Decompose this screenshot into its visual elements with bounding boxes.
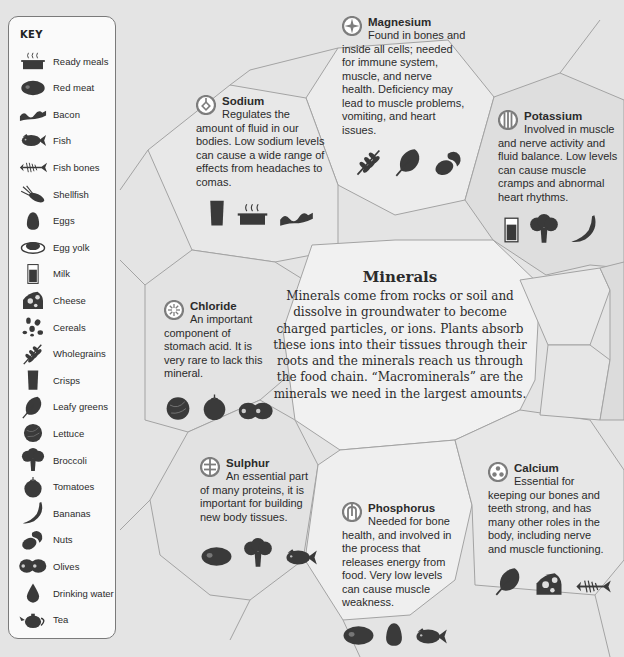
- eggs-icon: [385, 622, 403, 651]
- mineral-card-sulphur: Sulphur An essential part of many protei…: [200, 457, 312, 572]
- mineral-card-calcium: Calcium Essential for keeping our bones …: [488, 462, 612, 600]
- food-icons: [354, 147, 466, 181]
- ready-meals-icon: [236, 202, 269, 231]
- minerals-intro: Minerals Minerals come from rocks or soi…: [270, 268, 530, 402]
- mineral-description: Involved in muscle and nerve activity an…: [498, 123, 624, 204]
- olives-icon: [17, 556, 49, 576]
- calcium-symbol-icon: [488, 462, 508, 482]
- ready-meals-icon: [17, 51, 49, 71]
- cheese-icon: [17, 290, 49, 310]
- phosphorus-symbol-icon: [342, 502, 362, 522]
- mineral-description: Regulates the amount of fluid in our bod…: [196, 108, 328, 189]
- key-item: Wholegrains: [17, 344, 106, 364]
- key-item-label: Drinking water: [53, 588, 114, 599]
- key-item: Tea: [17, 610, 68, 630]
- mineral-title: Chloride: [190, 300, 237, 314]
- broccoli-icon: [17, 450, 49, 470]
- key-item-label: Tea: [53, 614, 68, 625]
- key-item: Fish: [17, 131, 71, 151]
- fish-icon: [17, 131, 49, 151]
- food-icons: [494, 566, 612, 600]
- cereals-icon: [17, 317, 49, 337]
- tea-icon: [17, 610, 49, 630]
- mineral-description: An important component of stomach acid. …: [164, 313, 264, 381]
- key-item-label: Fish: [53, 135, 71, 146]
- key-item-label: Cereals: [53, 322, 86, 333]
- tomatoes-icon: [202, 393, 227, 425]
- fish-bones-icon: [17, 157, 49, 177]
- mineral-title: Sulphur: [226, 457, 269, 471]
- mineral-title: Phosphorus: [368, 502, 435, 516]
- key-item: Ready meals: [17, 51, 108, 71]
- key-item: Eggs: [17, 211, 75, 231]
- drinking-water-icon: [17, 583, 49, 603]
- fish-bones-icon: [574, 577, 612, 600]
- nuts-icon: [434, 149, 464, 181]
- olives-icon: [237, 401, 275, 425]
- key-item-label: Crisps: [53, 375, 80, 386]
- sulphur-symbol-icon: [200, 457, 220, 477]
- nuts-icon: [17, 530, 49, 550]
- broccoli-icon: [243, 538, 273, 572]
- key-item: Crisps: [17, 370, 80, 390]
- mineral-title: Magnesium: [368, 16, 431, 30]
- mineral-card-sodium: Sodium Regulates the amount of fluid in …: [196, 95, 328, 231]
- key-item-label: Shellfish: [53, 189, 89, 200]
- magnesium-symbol-icon: [342, 16, 362, 36]
- bananas-icon: [17, 503, 49, 523]
- key-item: Red meat: [17, 78, 94, 98]
- chloride-symbol-icon: [164, 300, 184, 320]
- bacon-icon: [17, 104, 49, 124]
- key-item-label: Olives: [53, 561, 79, 572]
- mineral-card-chloride: Chloride An important component of stoma…: [164, 300, 264, 424]
- red-meat-icon: [200, 545, 233, 572]
- mineral-description: Essential for keeping our bones and teet…: [488, 475, 612, 556]
- key-item-label: Tomatoes: [53, 481, 94, 492]
- red-meat-icon: [342, 624, 375, 651]
- bacon-icon: [279, 208, 314, 231]
- key-item: Fish bones: [17, 157, 99, 177]
- key-item: Lettuce: [17, 423, 84, 443]
- fish-icon: [283, 547, 318, 572]
- mineral-card-potassium: Potassium Involved in muscle and nerve a…: [498, 110, 624, 248]
- eggs-icon: [17, 211, 49, 231]
- tomatoes-icon: [17, 477, 49, 497]
- key-item: Olives: [17, 556, 79, 576]
- cell-right-2: [540, 345, 610, 420]
- shellfish-icon: [17, 184, 49, 204]
- mineral-description: An essential part of many proteins, it i…: [200, 470, 312, 524]
- key-panel: KEY Ready mealsRed meatBaconFishFish bon…: [8, 16, 116, 639]
- wholegrains-icon: [17, 344, 49, 364]
- leafy-greens-icon: [394, 147, 424, 181]
- key-item-label: Bananas: [53, 508, 91, 519]
- key-item-label: Fish bones: [53, 162, 99, 173]
- leafy-greens-icon: [17, 397, 49, 417]
- key-item-label: Bacon: [53, 109, 80, 120]
- key-item: Cheese: [17, 290, 86, 310]
- fish-icon: [413, 626, 448, 651]
- food-icons: [504, 214, 624, 248]
- key-item-label: Milk: [53, 268, 70, 279]
- key-item-label: Red meat: [53, 82, 94, 93]
- mineral-title: Potassium: [524, 110, 582, 124]
- lettuce-icon: [164, 396, 192, 425]
- mineral-title: Calcium: [514, 462, 559, 476]
- key-item: Bacon: [17, 104, 80, 124]
- key-item-label: Egg yolk: [53, 242, 89, 253]
- key-item: Nuts: [17, 530, 73, 550]
- crisps-icon: [17, 370, 49, 390]
- bananas-icon: [569, 214, 599, 248]
- key-item: Drinking water: [17, 583, 114, 603]
- food-icons: [208, 199, 328, 231]
- key-item: Milk: [17, 264, 70, 284]
- mineral-card-phosphorus: Phosphorus Needed for bone health, and i…: [342, 502, 462, 650]
- mineral-title: Sodium: [222, 95, 264, 109]
- intro-title: Minerals: [270, 268, 530, 286]
- egg-yolk-icon: [17, 237, 49, 257]
- crisps-icon: [208, 199, 226, 231]
- wholegrains-icon: [354, 147, 384, 181]
- key-item-label: Cheese: [53, 295, 86, 306]
- key-item-label: Broccoli: [53, 455, 87, 466]
- key-item-label: Wholegrains: [53, 348, 106, 359]
- key-item: Broccoli: [17, 450, 87, 470]
